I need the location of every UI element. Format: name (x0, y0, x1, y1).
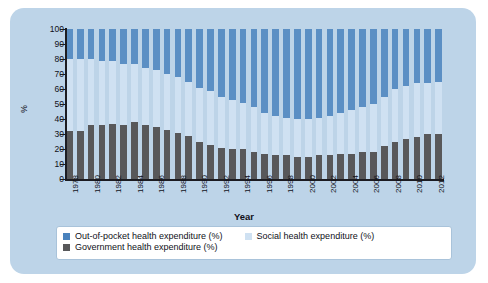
bar-segment-government (131, 122, 138, 179)
bar-segment-social (229, 100, 236, 150)
bar-2002[interactable] (327, 29, 334, 179)
x-axis-tick-slot: 2006 (367, 182, 378, 210)
x-axis-title: Year (0, 211, 488, 222)
legend-item-social[interactable]: Social health expenditure (%) (245, 231, 375, 242)
bar-2000[interactable] (305, 29, 312, 179)
bar-2001[interactable] (316, 29, 323, 179)
bar-segment-out-of-pocket (120, 29, 127, 64)
bar-segment-government (337, 154, 344, 180)
bar-1996[interactable] (261, 29, 268, 179)
bar-segment-social (392, 89, 399, 142)
bar-1981[interactable] (99, 29, 106, 179)
bar-segment-social (120, 64, 127, 126)
x-axis-tick-slot (399, 182, 410, 210)
bar-segment-social (218, 97, 225, 148)
x-axis-tick-slot: 2010 (410, 182, 421, 210)
legend-swatch-icon-government (63, 244, 70, 251)
bar-segment-out-of-pocket (88, 29, 95, 59)
bar-segment-government (424, 134, 431, 179)
bar-segment-government (175, 133, 182, 180)
bar-segment-government (185, 136, 192, 180)
bar-segment-out-of-pocket (348, 29, 355, 110)
bar-segment-government (392, 142, 399, 180)
bar-segment-social (185, 82, 192, 136)
bar-segment-government (381, 146, 388, 179)
y-axis-tick-mark (60, 74, 65, 75)
bar-2007[interactable] (381, 29, 388, 179)
bar-1995[interactable] (251, 29, 258, 179)
bar-1984[interactable] (131, 29, 138, 179)
bar-1993[interactable] (229, 29, 236, 179)
bar-segment-out-of-pocket (153, 29, 160, 70)
bar-1998[interactable] (283, 29, 290, 179)
x-axis-tick-slot: 2004 (346, 182, 357, 210)
y-axis-tick-mark (60, 29, 65, 30)
bar-segment-out-of-pocket (99, 29, 106, 61)
x-axis-tick-slot (141, 182, 152, 210)
bar-1979[interactable] (77, 29, 84, 179)
bar-segment-government (435, 134, 442, 179)
bar-2009[interactable] (403, 29, 410, 179)
x-axis-tick-slot (335, 182, 346, 210)
legend-item-out-of-pocket[interactable]: Out-of-pocket health expenditure (%) (63, 231, 223, 242)
bar-2005[interactable] (359, 29, 366, 179)
bar-2006[interactable] (370, 29, 377, 179)
bar-segment-out-of-pocket (185, 29, 192, 82)
legend-row-bottom: Government health expenditure (%) (63, 242, 445, 253)
bar-segment-out-of-pocket (414, 29, 421, 83)
bar-2004[interactable] (348, 29, 355, 179)
bar-segment-social (88, 59, 95, 125)
bar-segment-social (424, 83, 431, 134)
bar-segment-out-of-pocket (327, 29, 334, 116)
bar-segment-social (403, 86, 410, 139)
bar-2010[interactable] (414, 29, 421, 179)
bar-2008[interactable] (392, 29, 399, 179)
bar-2011[interactable] (424, 29, 431, 179)
bar-1992[interactable] (218, 29, 225, 179)
bar-1982[interactable] (109, 29, 116, 179)
bar-2003[interactable] (337, 29, 344, 179)
bar-segment-government (164, 130, 171, 180)
x-axis-tick-slot (270, 182, 281, 210)
y-axis-tick-mark (60, 179, 65, 180)
bar-1989[interactable] (185, 29, 192, 179)
bar-1991[interactable] (207, 29, 214, 179)
bar-1985[interactable] (142, 29, 149, 179)
bar-1994[interactable] (240, 29, 247, 179)
bar-1997[interactable] (272, 29, 279, 179)
bar-2012[interactable] (435, 29, 442, 179)
bar-segment-out-of-pocket (196, 29, 203, 88)
x-axis-tick-slot: 1980 (88, 182, 99, 210)
bar-1987[interactable] (164, 29, 171, 179)
x-axis-tick-slot: 2000 (303, 182, 314, 210)
bar-1983[interactable] (120, 29, 127, 179)
bar-segment-social (131, 64, 138, 123)
bar-segment-out-of-pocket (229, 29, 236, 100)
x-axis-tick-slot (249, 182, 260, 210)
bar-segment-social (272, 116, 279, 155)
bar-segment-social (261, 113, 268, 154)
bar-1988[interactable] (175, 29, 182, 179)
bar-segment-out-of-pocket (294, 29, 301, 119)
bar-segment-out-of-pocket (109, 29, 116, 61)
bar-segment-out-of-pocket (370, 29, 377, 104)
y-axis-line (65, 28, 67, 180)
bar-segment-social (77, 59, 84, 131)
bar-segment-government (77, 131, 84, 179)
legend-item-government[interactable]: Government health expenditure (%) (63, 242, 218, 253)
x-axis-tick-slot: 1990 (195, 182, 206, 210)
bar-segment-out-of-pocket (283, 29, 290, 118)
x-axis-tick-slot: 2008 (389, 182, 400, 210)
y-axis-tick-mark (60, 89, 65, 90)
x-axis-tick-slot: 1978 (66, 182, 77, 210)
bar-1999[interactable] (294, 29, 301, 179)
bar-1990[interactable] (196, 29, 203, 179)
bar-segment-government (109, 124, 116, 180)
x-axis-tick-slot (163, 182, 174, 210)
bar-segment-social (348, 110, 355, 154)
x-axis-tick-slot: 1988 (174, 182, 185, 210)
bar-segment-social (142, 68, 149, 125)
bar-segment-government (414, 137, 421, 179)
bar-1986[interactable] (153, 29, 160, 179)
bar-1980[interactable] (88, 29, 95, 179)
